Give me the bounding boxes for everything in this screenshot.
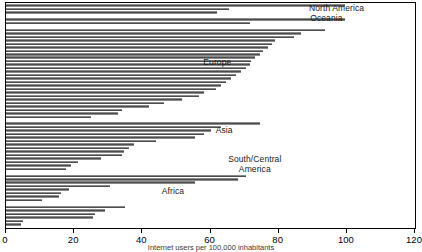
region-label-south-central-america: South/Central America [228,154,281,174]
bar [6,4,345,7]
x-tick [210,229,211,233]
bar [6,175,246,178]
region-label-asia: Asia [216,125,233,135]
x-tick [414,229,415,233]
x-tick [346,229,347,233]
bar [6,147,129,150]
x-tick [141,229,142,233]
bar [6,74,236,77]
bar [6,53,260,56]
bar [6,161,78,164]
bar [6,216,93,219]
region-label-europe: Europe [203,57,231,67]
bar [6,188,69,191]
bar [6,185,110,188]
bar [6,126,221,129]
region-label-oceania: Oceania [310,13,342,23]
bar [6,150,124,153]
bar [6,112,118,115]
bar [6,84,221,87]
bar [6,213,95,216]
chart-container: North AmericaOceaniaEuropeAsiaSouth/Cent… [0,0,422,252]
x-tick [73,229,74,233]
bar [6,220,23,223]
chart-caption: Internet users per 100,000 inhabitants [0,243,422,252]
bar [6,154,122,157]
bar [6,164,71,167]
bar [6,8,229,11]
region-label-africa: Africa [162,186,184,196]
bar [6,129,211,132]
bar [6,91,204,94]
bar [6,133,204,136]
bar [6,81,226,84]
bar [6,102,164,105]
bar [6,88,216,91]
bar-series [6,3,415,228]
bar [6,70,241,73]
bar [6,43,272,46]
bar [6,11,217,14]
x-tick [278,229,279,233]
bar [6,32,301,35]
bar [6,105,149,108]
bar [6,168,66,171]
bar [6,50,263,53]
bar [6,140,156,143]
bar [6,46,268,49]
bar [6,143,134,146]
bar [6,39,275,42]
bar [6,157,101,160]
bar [6,109,122,112]
bar [6,77,231,80]
bar [6,209,105,212]
bar [6,95,199,98]
bar [6,29,325,32]
bar [6,22,250,25]
bar [6,98,182,101]
bar [6,116,91,119]
bar [6,67,246,70]
bar [6,195,59,198]
bar [6,199,42,202]
bar [6,136,195,139]
bar [6,18,345,21]
x-tick [5,229,6,233]
bar [6,178,238,181]
bar [6,181,195,184]
bar [6,206,125,209]
plot-area: North AmericaOceaniaEuropeAsiaSouth/Cent… [5,2,416,229]
bar [6,192,61,195]
bar [6,223,21,226]
bar [6,36,294,39]
